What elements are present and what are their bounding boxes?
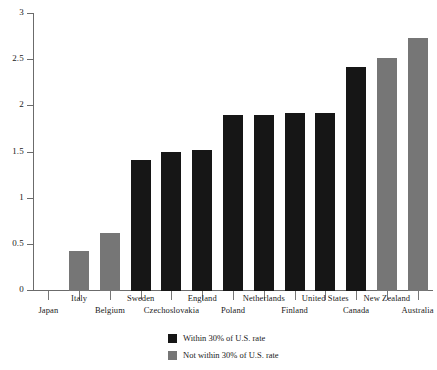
x-axis-label: Belgium xyxy=(95,305,125,316)
x-axis-label: Australia xyxy=(402,305,434,316)
x-axis-label: United States xyxy=(302,293,349,304)
bar xyxy=(254,115,274,291)
x-axis-label: Netherlands xyxy=(243,293,285,304)
bar xyxy=(192,150,212,291)
legend-item: Within 30% of U.S. rate xyxy=(168,331,265,345)
bar xyxy=(315,113,335,291)
y-axis-tick-label: 2 xyxy=(19,98,24,111)
bar xyxy=(285,113,305,291)
bar xyxy=(131,160,151,291)
y-axis-tick-label: 0.5 xyxy=(12,237,24,250)
legend-label: Within 30% of U.S. rate xyxy=(183,333,265,344)
x-axis-label: Finland xyxy=(281,305,308,316)
x-axis-label: England xyxy=(188,293,217,304)
x-axis-label: New Zealand xyxy=(364,293,411,304)
x-axis-label: Japan xyxy=(38,305,58,316)
y-axis-tick-label: 1 xyxy=(19,191,24,204)
x-axis-label: Poland xyxy=(221,305,245,316)
x-axis-label: Sweden xyxy=(127,293,155,304)
legend-swatch-icon xyxy=(168,334,177,343)
x-axis-label: Czechoslovakia xyxy=(144,305,199,316)
y-axis-tick-label: 1.5 xyxy=(12,145,24,158)
x-axis-labels: JapanItalyBelgiumSwedenCzechoslovakiaEng… xyxy=(0,292,437,320)
x-axis-label: Italy xyxy=(71,293,87,304)
bars-group xyxy=(33,13,433,291)
bar xyxy=(377,58,397,291)
bar-chart: 00.511.522.53 JapanItalyBelgiumSwedenCze… xyxy=(0,0,437,370)
legend-item: Not within 30% of U.S. rate xyxy=(168,348,279,362)
bar xyxy=(161,152,181,291)
y-axis-tick-label: 3 xyxy=(19,6,24,19)
bar xyxy=(100,233,120,291)
bar xyxy=(69,251,89,291)
y-axis-tick-label: 2.5 xyxy=(12,52,24,65)
legend-label: Not within 30% of U.S. rate xyxy=(183,350,279,361)
legend-swatch-icon xyxy=(168,351,177,360)
bar xyxy=(346,67,366,291)
bar xyxy=(223,115,243,291)
x-axis-label: Canada xyxy=(343,305,369,316)
bar xyxy=(408,38,428,291)
